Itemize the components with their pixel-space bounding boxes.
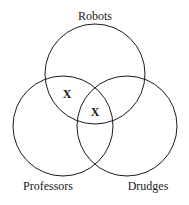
drudges-circle (77, 76, 177, 176)
drudges-label: Drudges (128, 179, 169, 193)
robots-label: Robots (78, 9, 112, 23)
venn-diagram: Robots Professors Drudges X X (0, 0, 189, 205)
x-mark-center: X (91, 105, 100, 119)
x-mark-robots-professors: X (63, 87, 72, 101)
professors-label: Professors (23, 179, 73, 193)
